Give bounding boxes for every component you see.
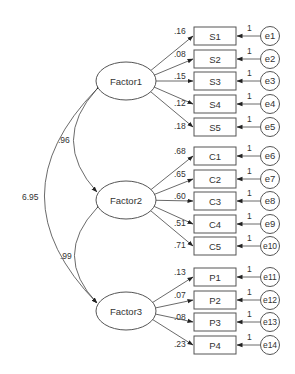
indicator-s2: S2 <box>194 50 236 68</box>
indicator-label: P2 <box>209 295 221 306</box>
indicator-label: C3 <box>209 196 221 207</box>
indicator-p3: P3 <box>194 313 236 331</box>
loading-path-p1 <box>152 277 193 303</box>
indicator-label: C2 <box>209 174 221 185</box>
indicator-c2: C2 <box>194 170 236 188</box>
loading-label: .08 <box>174 312 186 322</box>
error-weight-label: 1 <box>247 233 252 243</box>
error-term-e8: e8 <box>261 192 280 211</box>
indicator-p4: P4 <box>194 336 236 354</box>
indicator-p2: P2 <box>194 291 236 309</box>
indicator-label: C1 <box>209 151 221 162</box>
loading-label: .68 <box>174 146 186 156</box>
error-weight-label: 1 <box>247 287 252 297</box>
indicator-s1: S1 <box>194 27 236 45</box>
loading-path-p4 <box>152 319 193 345</box>
factor-factor1: Factor1 <box>96 62 156 100</box>
error-weight-label: 1 <box>247 114 252 124</box>
loading-label: .12 <box>174 98 186 108</box>
error-weight-label: 1 <box>247 91 252 101</box>
loading-path-c5 <box>150 210 193 246</box>
factor-label: Factor3 <box>110 306 142 317</box>
error-term-e1: e1 <box>261 27 280 46</box>
indicator-p1: P1 <box>194 268 236 286</box>
indicator-label: P3 <box>209 317 221 328</box>
loading-label: .15 <box>174 71 186 81</box>
indicator-label: P1 <box>209 272 221 283</box>
factor-label: Factor2 <box>110 195 142 206</box>
covariance-arc-factor1-factor3 <box>44 89 96 303</box>
error-weight-label: 1 <box>247 46 252 56</box>
error-paths: 11111111111111 <box>237 23 261 345</box>
error-term-e7: e7 <box>261 170 280 189</box>
loading-label: .07 <box>174 290 186 300</box>
error-weight-label: 1 <box>247 23 252 33</box>
error-label: e2 <box>265 53 276 64</box>
error-weight-label: 1 <box>247 188 252 198</box>
indicator-s5: S5 <box>194 118 236 136</box>
loading-label: .23 <box>174 339 186 349</box>
error-term-e10: e10 <box>261 237 280 256</box>
error-term-e9: e9 <box>261 215 280 234</box>
error-term-e6: e6 <box>261 147 280 166</box>
error-label: e3 <box>265 75 276 86</box>
covariance-arc-factor2-factor3 <box>74 208 96 303</box>
covariance-paths: .96.996.95 <box>22 89 97 303</box>
loading-path-c1 <box>151 156 193 190</box>
error-term-e12: e12 <box>261 291 280 310</box>
indicator-label: C4 <box>209 219 221 230</box>
indicator-s3: S3 <box>194 72 236 90</box>
error-weight-label: 1 <box>247 143 252 153</box>
error-term-e14: e14 <box>261 336 280 355</box>
error-weight-label: 1 <box>247 309 252 319</box>
covariance-label: 6.95 <box>22 192 39 202</box>
error-label: e11 <box>263 272 277 282</box>
indicator-c1: C1 <box>194 147 236 165</box>
error-label: e14 <box>263 340 277 350</box>
indicator-label: S2 <box>209 54 221 65</box>
error-label: e13 <box>263 317 277 327</box>
error-weight-label: 1 <box>247 211 252 221</box>
loading-label: .65 <box>174 169 186 179</box>
indicator-label: S4 <box>209 99 221 110</box>
loading-label: .18 <box>174 121 186 131</box>
loading-label: .51 <box>174 218 186 228</box>
loading-path-s5 <box>150 91 193 127</box>
loading-path-p2 <box>155 300 193 308</box>
indicator-label: S3 <box>209 76 221 87</box>
error-term-e11: e11 <box>261 268 280 287</box>
factor-label: Factor1 <box>110 76 142 87</box>
loading-label: .71 <box>174 240 186 250</box>
error-term-e5: e5 <box>261 118 280 137</box>
nodes: S1e1S2e2S3e3S4e4S5e5C1e6C2e7C3e8C4e9C5e1… <box>96 27 280 355</box>
error-label: e8 <box>265 195 276 206</box>
loading-paths: .16.08.15.12.18.68.65.60.51.71.13.07.08.… <box>150 26 193 349</box>
error-term-e4: e4 <box>261 95 280 114</box>
error-label: e6 <box>265 150 276 161</box>
error-weight-label: 1 <box>247 332 252 342</box>
error-weight-label: 1 <box>247 68 252 78</box>
diagram-canvas: .96.996.95 .16.08.15.12.18.68.65.60.51.7… <box>0 0 295 374</box>
error-term-e2: e2 <box>261 50 280 69</box>
loading-path-s1 <box>151 36 193 71</box>
indicator-label: P4 <box>209 340 221 351</box>
factor-factor2: Factor2 <box>96 181 156 219</box>
error-label: e12 <box>263 295 277 305</box>
error-label: e9 <box>265 218 276 229</box>
indicator-c5: C5 <box>194 237 236 255</box>
indicator-label: S5 <box>209 122 221 133</box>
indicator-c4: C4 <box>194 215 236 233</box>
covariance-label: .99 <box>60 251 72 261</box>
loading-label: .60 <box>174 191 186 201</box>
loading-label: .16 <box>174 26 186 36</box>
loading-label: .08 <box>174 49 186 59</box>
factor-factor3: Factor3 <box>96 292 156 330</box>
loading-label: .13 <box>174 267 186 277</box>
error-label: e10 <box>263 241 277 251</box>
error-term-e3: e3 <box>261 72 280 91</box>
error-term-e13: e13 <box>261 313 280 332</box>
error-label: e7 <box>265 173 276 184</box>
error-label: e4 <box>265 98 276 109</box>
covariance-arc-factor1-factor2 <box>73 89 96 192</box>
error-weight-label: 1 <box>247 166 252 176</box>
